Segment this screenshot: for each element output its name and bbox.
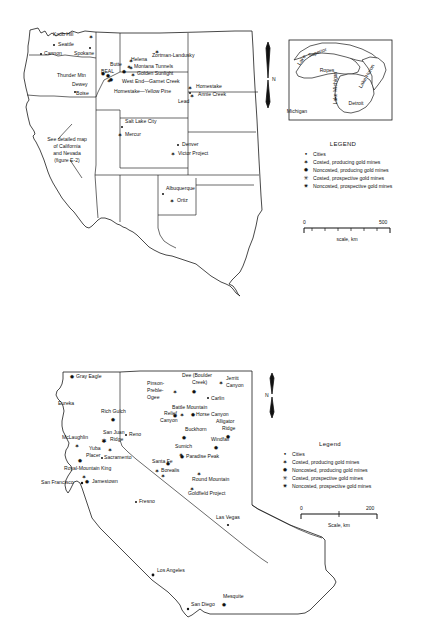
legend-title-bottom: Legend <box>319 441 341 447</box>
bottom-map-legend: Legend •Cities✶Costed, producing gold mi… <box>282 441 371 489</box>
legend-top-item-label-cities: Cities <box>313 151 326 157</box>
map-label-top-albuquerque: Albuquerque <box>166 185 195 191</box>
map-label-top-annie-creek: Annie Creek <box>198 91 226 97</box>
map-label-bottom-mesquite: Mesquite <box>223 593 244 599</box>
legend-bottom-item-label-noncosted-producing-gold-mines: Noncosted, producing gold mines <box>292 467 368 473</box>
map-label-bottom-ogee: Ogee <box>147 394 160 400</box>
map-label-bottom-alligator: Alligator <box>216 418 235 424</box>
legend-bottom-item-symbol-4: ✷ <box>282 482 287 489</box>
legend-bottom-item-symbol-3: ✳ <box>282 474 287 481</box>
legend-top-item-label-costed-prospective-gold-mines: Costed, prospective gold mines <box>313 175 385 181</box>
map-label-top-homestake: Homestake <box>196 83 222 89</box>
map-label-bottom-jamestown: Jamestown <box>92 478 118 484</box>
legend-bottom-item-label-noncosted-prospective-gold-mines: Noncosted, prospective gold mines <box>292 483 372 489</box>
map-label-top-denver: Denver <box>182 141 199 147</box>
svg-text:✹: ✹ <box>221 601 226 608</box>
svg-text:✱: ✱ <box>101 437 106 444</box>
svg-text:✶: ✶ <box>170 150 175 157</box>
map-label-top-beal: BEAL <box>101 68 114 74</box>
map-label-top-spokane: Spokane <box>74 50 94 56</box>
map-label-top-cannon: Cannon <box>44 50 62 56</box>
map-label-bottom-relief: Relief <box>164 410 178 416</box>
map-label-top-seattle: Seattle <box>58 41 74 47</box>
map-label-bottom-ridge: Ridge <box>222 425 235 431</box>
north-label-bottom: N <box>265 392 269 398</box>
svg-text:✶: ✶ <box>128 64 133 71</box>
map-label-bottom-placer: Placer <box>86 452 101 458</box>
map-label-top-boise: Boise <box>76 90 89 96</box>
legend-bottom-item-symbol-0: • <box>283 450 287 457</box>
svg-text:✹: ✹ <box>77 457 82 464</box>
top-map-scale-bar: 0 500 scale, km <box>303 219 390 242</box>
scale-min-bottom: 0 <box>300 505 303 511</box>
top-map-legend: LEGEND •Cities✶Costed, producing gold mi… <box>303 141 392 189</box>
gold-mine-maps-figure: ✶ ✹ ✶ ✹ ✶ ✶ ✶ ✶ ✶ ✹ ✶ ✶ ✶ ✶ ✶ ✹ See deta… <box>0 0 438 631</box>
map-label-bottom-borealis: Borealis <box>161 467 180 473</box>
map-label-bottom-yuba: Yuba <box>89 445 101 451</box>
svg-text:✶: ✶ <box>172 388 177 395</box>
map-label-bottom-gray-eagle: Gray Eagle <box>76 373 102 379</box>
svg-text:✶: ✶ <box>117 131 122 138</box>
map-label-bottom-los-angeles: Los Angeles <box>157 567 185 573</box>
map-label-bottom-jerritt: Jerritt <box>226 375 239 381</box>
map-label-top-zortman-landusky: Zortman-Landusky <box>152 52 195 58</box>
top-map-western-us: ✶ ✹ ✶ ✹ ✶ ✶ ✶ ✶ ✶ ✹ ✶ ✶ ✶ ✶ ✶ ✹ See deta… <box>24 28 276 296</box>
note-line-0: See detailed map <box>47 136 87 142</box>
svg-text:✶: ✶ <box>130 71 135 78</box>
map-label-bottom-goldfield-project: Goldfield Project <box>188 490 226 496</box>
legend-bottom-item-label-cities: Cities <box>292 451 305 457</box>
svg-text:✹: ✹ <box>179 453 184 460</box>
map-label-bottom-dee-boulder: Dee (Boulder <box>182 372 212 378</box>
scale-min-top: 0 <box>303 219 306 225</box>
north-label-top: N <box>272 76 276 82</box>
map-label-top-lead: Lead <box>178 98 189 104</box>
svg-text:✹: ✹ <box>84 478 89 485</box>
map-label-bottom-santa-fe: Santa Fe <box>152 458 173 464</box>
map-label-top-knob-hill: Knob Hill <box>53 31 73 37</box>
svg-text:✶: ✶ <box>160 472 165 479</box>
legend-top-item-label-noncosted-producing-gold-mines: Noncosted, producing gold mines <box>313 167 389 173</box>
map-label-bottom-san-juan: San Juan <box>103 429 125 435</box>
bottom-map-scale-bar: 0 200 Scale, km <box>300 505 377 528</box>
scale-caption-top: scale, km <box>336 236 357 242</box>
scale-caption-bottom: Scale, km <box>328 522 350 528</box>
map-label-bottom-creek: Creek) <box>192 379 208 385</box>
map-label-top-dewey: Dewey <box>72 81 88 87</box>
legend-bottom-item-label-costed-prospective-gold-mines: Costed, prospective gold mines <box>292 475 364 481</box>
map-label-top-helena: Helena <box>131 56 147 62</box>
map-label-bottom-battle-mountain: Battle Mountain <box>172 404 208 410</box>
inset-label-lake-michigan: Lake Michigan <box>332 71 338 104</box>
svg-text:✹: ✹ <box>190 411 195 418</box>
svg-text:✹: ✹ <box>213 444 218 451</box>
map-label-bottom-mclaughlin: McLaughlin <box>62 434 88 440</box>
map-label-bottom-carlin: Carlin <box>211 395 224 401</box>
note-line-3: (figure E-2) <box>54 157 80 163</box>
legend-bottom-item-symbol-1: ✶ <box>282 458 287 465</box>
svg-text:✶: ✶ <box>107 446 112 453</box>
map-label-top-golden-sunlight: Golden Sunlight <box>137 70 174 76</box>
legend-top-item-symbol-3: ✳ <box>303 174 308 181</box>
legend-title-top: LEGEND <box>330 141 357 147</box>
map-label-bottom-ridge: Ridge <box>110 436 123 442</box>
map-label-top-homestake-yellow-pine: Homestake—Yellow Pine <box>114 88 171 94</box>
svg-text:✹: ✹ <box>69 373 74 380</box>
legend-top-item-symbol-4: ✷ <box>303 182 308 189</box>
map-label-bottom-canyon: Canyon <box>160 417 178 423</box>
scale-max-bottom: 200 <box>366 505 375 511</box>
map-label-top-victor-project: Victor Project <box>178 150 209 156</box>
north-arrow-bottom: N <box>265 373 274 418</box>
map-label-bottom-sumich: Sumich <box>175 443 192 449</box>
svg-text:✶: ✶ <box>88 33 93 40</box>
map-label-bottom-royal-mountain-king: Royal-Mountain King <box>64 465 111 471</box>
svg-text:✶: ✶ <box>74 442 79 449</box>
map-label-bottom-pinson: Pinson- <box>147 380 165 386</box>
map-label-top-ortiz: Ortiz <box>177 197 188 203</box>
map-label-bottom-rich-gulch: Rich Gulch <box>101 408 126 414</box>
legend-top-item-label-costed-producing-gold-mines: Costed, producing gold mines <box>313 159 381 165</box>
svg-text:✹: ✹ <box>191 388 196 395</box>
map-label-bottom-san-francisco: San Francisco <box>41 479 74 485</box>
svg-text:✶: ✶ <box>189 92 194 99</box>
legend-top-item-symbol-1: ✶ <box>303 158 308 165</box>
map-label-bottom-paradise-peak: Paradise Peak <box>186 453 220 459</box>
map-label-bottom-san-diego: San Diego <box>191 601 215 607</box>
